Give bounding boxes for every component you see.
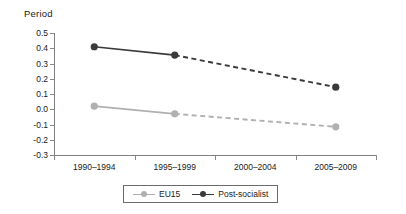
chart-container: Period 0.50.40.30.20.10.0-0.1-0.2-0.3 19… xyxy=(0,0,406,214)
series-layer xyxy=(0,0,406,214)
y-tick-label: 0.4 xyxy=(2,43,48,53)
data-point-marker xyxy=(171,52,178,59)
series-line xyxy=(94,47,175,55)
series-line xyxy=(94,106,175,114)
y-tick xyxy=(50,140,54,141)
x-tick xyxy=(135,155,136,160)
legend-marker-icon xyxy=(133,190,155,199)
y-tick xyxy=(50,64,54,65)
y-tick xyxy=(50,79,54,80)
data-point-marker xyxy=(171,110,178,117)
x-tick xyxy=(54,155,55,160)
y-tick-label: 0.2 xyxy=(2,74,48,84)
legend-label: EU15 xyxy=(159,189,180,199)
data-point-marker xyxy=(332,123,339,130)
y-tick xyxy=(50,33,54,34)
y-tick xyxy=(50,125,54,126)
x-tick xyxy=(376,155,377,160)
y-tick xyxy=(50,109,54,110)
chart-legend: EU15Post-socialist xyxy=(123,185,278,203)
y-tick-label: -0.2 xyxy=(2,135,48,145)
y-tick-label: -0.3 xyxy=(2,150,48,160)
data-point-marker xyxy=(91,43,98,50)
y-axis-labels: 0.50.40.30.20.10.0-0.1-0.2-0.3 xyxy=(0,0,48,214)
y-axis-line xyxy=(54,33,55,156)
legend-item[interactable]: EU15 xyxy=(133,189,180,199)
y-tick-label: -0.1 xyxy=(2,120,48,130)
series-line xyxy=(175,114,336,127)
x-tick-label: 2005–2009 xyxy=(314,162,357,172)
legend-marker-icon xyxy=(192,190,214,199)
y-tick xyxy=(50,94,54,95)
x-tick-label: 1995–1999 xyxy=(153,162,196,172)
y-tick-label: 0.0 xyxy=(2,104,48,114)
y-tick-label: 0.5 xyxy=(2,28,48,38)
legend-item[interactable]: Post-socialist xyxy=(192,189,268,199)
data-point-marker xyxy=(91,103,98,110)
y-tick xyxy=(50,48,54,49)
legend-label: Post-socialist xyxy=(218,189,268,199)
x-tick-label: 1990–1994 xyxy=(73,162,116,172)
data-point-marker xyxy=(332,84,339,91)
x-tick xyxy=(296,155,297,160)
y-tick-label: 0.3 xyxy=(2,59,48,69)
x-tick-label: 2000–2004 xyxy=(234,162,277,172)
y-tick-label: 0.1 xyxy=(2,89,48,99)
x-tick xyxy=(215,155,216,160)
series-line xyxy=(175,55,336,87)
